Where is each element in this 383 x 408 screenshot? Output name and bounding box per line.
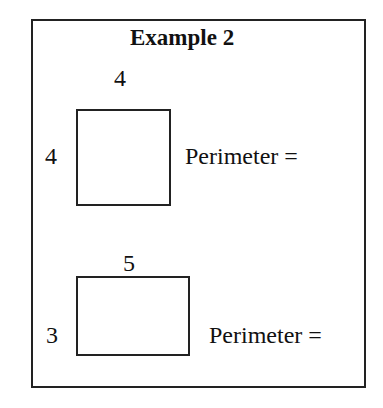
rectangle-top-label: 5 xyxy=(123,251,135,275)
rectangle-shape xyxy=(76,276,190,356)
square-top-label: 4 xyxy=(114,66,126,90)
square-perimeter-label: Perimeter = xyxy=(185,144,298,168)
square-side-label: 4 xyxy=(45,144,57,168)
square-shape xyxy=(76,109,171,206)
example-title: Example 2 xyxy=(130,26,234,49)
rectangle-side-label: 3 xyxy=(46,323,58,347)
rectangle-perimeter-label: Perimeter = xyxy=(209,323,322,347)
